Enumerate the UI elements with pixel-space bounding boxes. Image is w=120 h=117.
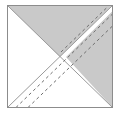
- geometric-diagram: Half-square triangle block with dashed s…: [0, 0, 120, 117]
- figure-root: Half-square triangle block with dashed s…: [0, 0, 120, 117]
